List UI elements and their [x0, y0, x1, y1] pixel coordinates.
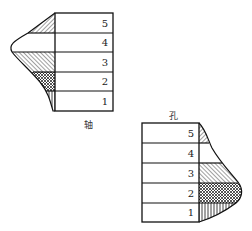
hole-row-label: 2 — [188, 188, 194, 199]
hole-row-label: 3 — [188, 168, 194, 179]
shaft-row-label: 5 — [102, 18, 108, 29]
hole-row-label: 1 — [188, 207, 194, 218]
shaft-row-label: 3 — [102, 57, 108, 68]
hole-hatch-regions — [199, 123, 252, 222]
hole-row-label: 4 — [188, 148, 194, 159]
shaft-row-label: 2 — [102, 76, 108, 87]
shaft-caption: 轴 — [84, 119, 93, 130]
shaft-hatch-regions — [0, 13, 55, 111]
shaft-row-label: 1 — [102, 96, 108, 107]
hole-diagram: 5 4 3 2 1 孔 — [142, 111, 252, 222]
hole-caption: 孔 — [169, 111, 178, 121]
shaft-diagram: 5 4 3 2 1 轴 — [0, 13, 113, 130]
tolerance-zone-diagram: 5 4 3 2 1 轴 5 4 3 2 1 孔 — [0, 0, 252, 231]
hole-row-label: 5 — [188, 128, 194, 139]
shaft-row-label: 4 — [102, 37, 108, 48]
